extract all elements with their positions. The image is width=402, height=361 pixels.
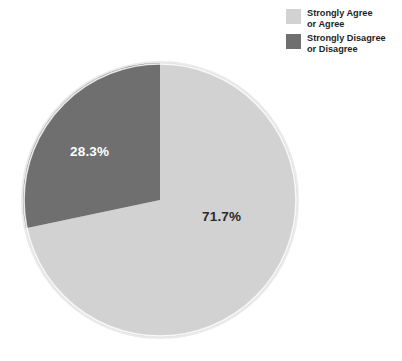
pie-label-agree: 71.7% bbox=[202, 209, 241, 224]
legend-label-disagree-line1: Strongly Disagree bbox=[307, 33, 386, 43]
legend-label-agree: Strongly Agree or Agree bbox=[307, 8, 373, 29]
chart-canvas: 28.3% 71.7% Strongly Agree or Agree Stro… bbox=[0, 0, 402, 361]
legend-item-agree[interactable]: Strongly Agree or Agree bbox=[286, 8, 400, 29]
legend-label-disagree-line2: or Disagree bbox=[307, 44, 386, 55]
legend-swatch-disagree-icon bbox=[286, 34, 301, 49]
legend-label-agree-line2: or Agree bbox=[307, 19, 373, 30]
pie-label-disagree: 28.3% bbox=[70, 144, 109, 159]
legend-label-disagree: Strongly Disagree or Disagree bbox=[307, 33, 386, 54]
legend-swatch-agree-icon bbox=[286, 9, 301, 24]
legend-label-agree-line1: Strongly Agree bbox=[307, 8, 373, 18]
chart-legend: Strongly Agree or Agree Strongly Disagre… bbox=[286, 8, 400, 58]
legend-item-disagree[interactable]: Strongly Disagree or Disagree bbox=[286, 33, 400, 54]
